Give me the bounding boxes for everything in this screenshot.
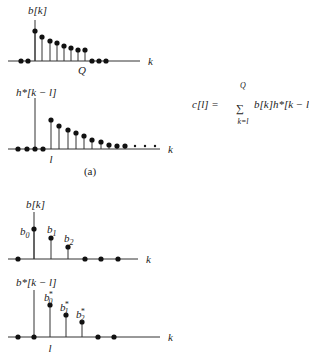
caption-a: (a) <box>84 165 97 178</box>
correlation-equation: c[l] =∑Qk=lb[k]h*[k − l] <box>192 81 309 126</box>
stem-dot <box>56 123 61 128</box>
zero-dot <box>89 58 94 63</box>
x-axis-label: k <box>168 331 174 343</box>
stem-label-b1-conj: b*1 <box>60 300 69 316</box>
zero-dot <box>40 146 45 151</box>
stem-dot <box>65 127 70 132</box>
zero-dot <box>82 256 87 261</box>
stem-plot-b-conj-shift: b*[k − l]klb*0b*1b*2 <box>8 276 174 354</box>
stem-dot <box>82 47 87 52</box>
zero-dot <box>31 334 36 339</box>
zero-dot <box>111 334 116 339</box>
stem-dot <box>114 143 119 148</box>
sum-lower-limit: k=l <box>237 117 249 126</box>
stem-label-b0: b0 <box>20 225 30 240</box>
zero-dot <box>103 58 108 63</box>
sum-upper-limit: Q <box>240 81 246 90</box>
ellipsis-dot <box>154 145 156 147</box>
stem-dot <box>54 40 59 45</box>
zero-dot <box>95 334 100 339</box>
zero-dot <box>32 146 37 151</box>
zero-dot <box>18 58 23 63</box>
stem-dot <box>81 133 86 138</box>
stem-dot <box>47 38 52 43</box>
stem-dot <box>89 137 94 142</box>
stem-plot-b-of-k-short: b[k]kb0b1b2 <box>8 198 152 265</box>
x-axis-label: k <box>148 55 154 67</box>
zero-dot <box>15 334 20 339</box>
zero-dot <box>115 256 120 261</box>
stem-dot <box>61 43 66 48</box>
stem-dot <box>32 28 37 33</box>
x-axis-label: k <box>146 253 152 265</box>
stem-dot <box>122 143 127 148</box>
stem-label-b1: b1 <box>47 223 57 238</box>
ellipsis-dot <box>144 145 146 147</box>
y-axis-label: b*[k − l] <box>16 276 56 288</box>
stem-dot <box>48 117 53 122</box>
stem-dot <box>73 130 78 135</box>
stem-dot <box>106 142 111 147</box>
ellipsis-dot <box>134 145 136 147</box>
stem-dot <box>68 45 73 50</box>
y-axis-label: h*[k − l] <box>16 86 56 98</box>
equation-lhs: c[l] = <box>192 98 219 110</box>
summation-symbol: ∑ <box>236 102 244 115</box>
y-axis-label: b[k] <box>26 198 45 210</box>
stem-dot <box>39 34 44 39</box>
tick-label-l: l <box>49 153 52 165</box>
stem-plot-b-of-k-long: b[k]kQ <box>8 4 154 76</box>
tick-label-l: l <box>48 342 51 354</box>
stem-label-b2: b2 <box>64 232 74 247</box>
zero-dot <box>15 256 20 261</box>
zero-dot <box>25 58 30 63</box>
stem-dot <box>98 139 103 144</box>
zero-dot <box>15 146 20 151</box>
x-axis-label: k <box>168 143 174 155</box>
tick-label-Q: Q <box>78 64 86 76</box>
stem-plot-h-conj-shift: h*[k − l]kl <box>8 86 174 165</box>
zero-dot <box>98 256 103 261</box>
zero-dot <box>24 146 29 151</box>
stem-dot <box>31 226 36 231</box>
stem-label-b0-conj: b*0 <box>44 290 53 306</box>
figure-canvas: b[k]kQh*[k − l]klb[k]kb0b1b2b*[k − l]klb… <box>0 0 309 356</box>
stem-label-b2-conj: b*2 <box>76 307 85 323</box>
equation-rhs: b[k]h*[k − l] <box>254 98 309 110</box>
y-axis-label: b[k] <box>28 4 47 16</box>
zero-dot <box>96 58 101 63</box>
stem-dot <box>75 47 80 52</box>
